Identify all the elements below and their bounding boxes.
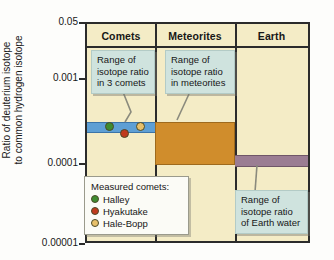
legend: Measured comets: Halley Hyakutake Hale-B…	[84, 176, 189, 235]
data-point-hale-bopp	[136, 122, 145, 131]
legend-title: Measured comets:	[91, 181, 181, 192]
earth-range-band	[235, 155, 308, 167]
column-header-comets: Comets	[87, 28, 155, 44]
legend-label-hale-bopp: Hale-Bopp	[103, 218, 148, 229]
comets-callout-line-1: Range of	[97, 54, 149, 66]
earth-callout-line-1: Range of	[241, 194, 302, 206]
earth-callout-line-3: of Earth water	[241, 217, 302, 229]
legend-item-hale-bopp: Hale-Bopp	[91, 217, 181, 229]
y-tick-mark-0-00001	[79, 243, 85, 245]
legend-item-hyakutake: Hyakutake	[91, 205, 181, 217]
meteorites-callout-line-3: in meteorites	[171, 77, 229, 89]
y-axis-title-line-2: to common hydrogen isotope	[13, 36, 24, 165]
meteorites-callout-line-2: isotope ratio	[171, 66, 229, 78]
legend-dot-halley	[91, 195, 99, 203]
legend-item-halley: Halley	[91, 193, 181, 205]
legend-dot-hyakutake	[91, 207, 99, 215]
meteorites-callout-line-1: Range of	[171, 54, 229, 66]
earth-callout: Range of isotope ratio of Earth water	[235, 190, 308, 234]
y-tick-label-0-0001: 0.0001	[22, 157, 78, 168]
legend-label-hyakutake: Hyakutake	[103, 206, 148, 217]
column-header-meteorites: Meteorites	[155, 28, 235, 44]
meteorites-callout: Range of isotope ratio in meteorites	[165, 50, 235, 94]
y-tick-label-0-001: 0.001	[28, 72, 78, 83]
comets-callout-line-3: in 3 comets	[97, 77, 149, 89]
comets-callout-line-2: isotope ratio	[97, 66, 149, 78]
data-point-halley	[105, 122, 114, 131]
plot-area: Comets Meteorites Earth Range of isotope…	[85, 22, 310, 243]
meteorite-range-band	[155, 122, 235, 165]
y-tick-label-0-05: 0.05	[28, 16, 78, 27]
legend-label-halley: Halley	[103, 194, 129, 205]
header-separator-rule	[87, 46, 308, 48]
y-axis-title-line-1: Ratio of deuterium isotope	[1, 42, 12, 159]
data-point-hyakutake	[120, 129, 129, 138]
comets-callout: Range of isotope ratio in 3 comets	[91, 50, 155, 94]
earth-callout-line-2: isotope ratio	[241, 206, 302, 218]
chart-figure: Ratio of deuterium isotope to common hyd…	[0, 0, 334, 260]
legend-dot-hale-bopp	[91, 219, 99, 227]
y-tick-label-0-00001: 0.00001	[16, 237, 78, 248]
column-header-earth: Earth	[235, 28, 308, 44]
